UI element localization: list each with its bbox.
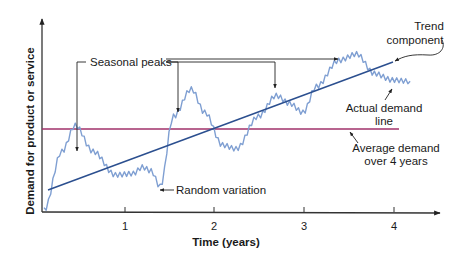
demand-components-chart: 1 2 3 4 Time (years) Demand for product … bbox=[0, 0, 466, 267]
seasonal-peaks-annotation: Seasonal peaks bbox=[77, 56, 338, 151]
seasonal-peaks-label: Seasonal peaks bbox=[90, 56, 172, 68]
actual-demand-label-line2: line bbox=[375, 115, 393, 127]
x-axis bbox=[42, 212, 440, 213]
random-variation-label: Random variation bbox=[176, 184, 266, 196]
x-tick-label-1: 1 bbox=[122, 220, 128, 232]
trend-component-annotation: Trend component bbox=[387, 20, 445, 61]
average-demand-label-line1: Average demand bbox=[352, 142, 439, 154]
chart-canvas: 1 2 3 4 Time (years) Demand for product … bbox=[0, 0, 466, 267]
x-axis-title: Time (years) bbox=[192, 236, 260, 248]
average-demand-annotation: Average demand over 4 years bbox=[350, 132, 440, 167]
random-variation-annotation: Random variation bbox=[160, 184, 266, 196]
trend-label-line1: Trend bbox=[414, 20, 444, 32]
x-tick-label-2: 2 bbox=[211, 220, 217, 232]
actual-demand-label-line1: Actual demand bbox=[346, 102, 423, 114]
x-tick-label-3: 3 bbox=[301, 220, 307, 232]
y-axis-title: Demand for product or service bbox=[24, 47, 36, 214]
axes: 1 2 3 4 Time (years) Demand for product … bbox=[24, 19, 440, 248]
trend-label-line2: component bbox=[387, 34, 445, 46]
average-demand-label-line2: over 4 years bbox=[364, 155, 428, 167]
x-tick-label-4: 4 bbox=[391, 220, 397, 232]
actual-demand-annotation: Actual demand line bbox=[346, 89, 423, 127]
trend-line bbox=[48, 62, 393, 190]
